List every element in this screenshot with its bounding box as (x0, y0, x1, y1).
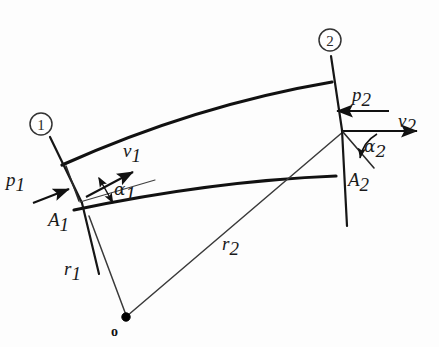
end-face-1 (66, 166, 79, 201)
section-line-1-upper (50, 137, 82, 203)
label-alpha2: α2 (364, 136, 386, 161)
angle-indicator-alpha1 (99, 178, 113, 203)
label-r2: r2 (222, 233, 239, 259)
label-origin: o (111, 324, 118, 339)
curved-channel-diagram: 1 2 p1 v1 α1 A1 r1 r2 o p2 v2 α2 A2 (0, 0, 439, 347)
label-v2: v2 (398, 110, 416, 136)
figure-canvas: 1 2 p1 v1 α1 A1 r1 r2 o p2 v2 α2 A2 (0, 0, 439, 347)
radius-line-r2 (127, 131, 344, 316)
section-line-2-lower (342, 130, 347, 226)
pressure-vector-p1 (33, 189, 69, 203)
label-v1: v1 (123, 140, 141, 166)
label-A2: A2 (346, 169, 370, 195)
section-marker-2-label: 2 (326, 33, 334, 49)
radius-line-r1 (89, 216, 126, 315)
label-A1: A1 (46, 209, 69, 235)
label-r1: r1 (64, 258, 81, 284)
section-line-2-upper (331, 56, 342, 130)
channel-outer-wall (62, 82, 332, 165)
origin-point-dot (122, 313, 130, 321)
section-marker-1-label: 1 (37, 117, 45, 133)
label-p1: p1 (4, 169, 25, 195)
label-p2: p2 (350, 84, 372, 110)
section-line-1-lower (82, 203, 99, 274)
